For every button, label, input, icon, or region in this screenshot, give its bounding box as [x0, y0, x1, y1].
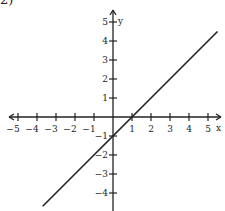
x-tick-label: 1 [129, 124, 135, 134]
y-tick-label: 1 [102, 93, 108, 103]
x-tick-label: −4 [25, 124, 39, 134]
x-tick-label: 3 [167, 124, 173, 134]
y-tick-label: −1 [95, 131, 108, 141]
y-tick-label: 3 [102, 55, 108, 65]
x-tick-label: −5 [6, 124, 20, 134]
x-tick-label: 2 [148, 124, 154, 134]
y-tick-label: −3 [95, 169, 109, 179]
y-tick-label: 2 [102, 74, 108, 84]
y-tick-label: 4 [102, 36, 108, 46]
x-tick-label: −1 [82, 124, 95, 134]
y-tick-label: 5 [102, 17, 108, 27]
y-axis-label: y [117, 16, 124, 26]
x-axis-label: x [216, 123, 221, 133]
y-tick-label: −4 [95, 188, 109, 198]
x-tick-label: −3 [44, 124, 58, 134]
graph-line [43, 32, 218, 207]
x-tick-label: −2 [63, 124, 76, 134]
x-tick-label: 5 [205, 124, 211, 134]
x-tick-label: 4 [186, 124, 192, 134]
coordinate-plane: −5−4−3−2−11234554321−1−2−3−4xy [0, 0, 225, 211]
